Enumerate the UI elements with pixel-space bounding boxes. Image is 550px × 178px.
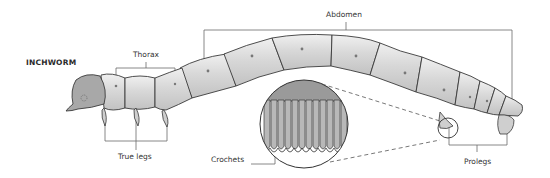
label-thorax: Thorax bbox=[133, 50, 159, 59]
label-true-legs: True legs bbox=[118, 152, 152, 161]
label-abdomen: Abdomen bbox=[326, 10, 362, 19]
inchworm-diagram bbox=[0, 0, 550, 178]
crochets-magnified bbox=[260, 80, 350, 170]
label-crochets: Crochets bbox=[211, 155, 244, 164]
abdomen-segments bbox=[180, 34, 523, 116]
label-prolegs: Prolegs bbox=[464, 157, 491, 166]
head bbox=[66, 75, 105, 111]
diagram-title: INCHWORM bbox=[26, 58, 76, 67]
anal-proleg bbox=[498, 115, 514, 134]
true-legs bbox=[102, 108, 168, 127]
thorax-segments bbox=[101, 68, 192, 110]
